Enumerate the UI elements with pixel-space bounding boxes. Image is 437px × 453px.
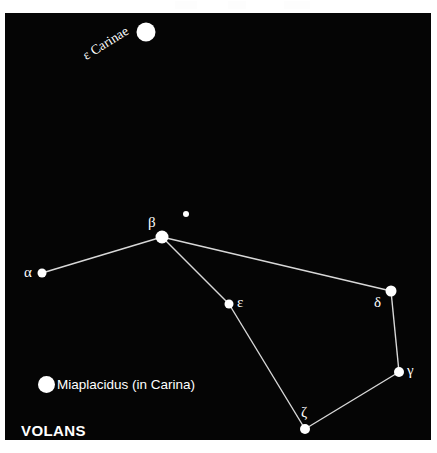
- constellation-line-epsilon-zeta: [229, 304, 305, 429]
- star-delta: [386, 286, 397, 297]
- sky-panel: ε Carinaeβαεδγζ Miaplacidus (in Carina) …: [5, 13, 431, 440]
- star-label-alpha: α: [24, 265, 32, 280]
- legend-label: Miaplacidus (in Carina): [57, 378, 195, 392]
- constellation-line-beta-delta: [162, 237, 391, 291]
- star-label-epsilon: ε: [237, 295, 243, 310]
- constellation-chart: ε Carinaeβαεδγζ Miaplacidus (in Carina) …: [0, 0, 437, 453]
- constellation-line-gamma-delta: [391, 291, 399, 372]
- star-unnamed-faint: [183, 211, 189, 217]
- constellation-line-beta-epsilon: [162, 237, 229, 304]
- star-label-zeta: ζ: [301, 405, 307, 420]
- caption-artifact-0: [175, 1, 197, 9]
- caption-artifact-1: [228, 1, 246, 9]
- constellation-line-alpha-beta: [42, 237, 162, 273]
- constellation-lines: [42, 237, 399, 429]
- star-zeta: [300, 424, 310, 434]
- legend: Miaplacidus (in Carina): [38, 376, 195, 393]
- star-epsilon: [225, 300, 234, 309]
- caption-artifact-2: [284, 1, 310, 9]
- star-epsilon-carinae: [137, 23, 156, 42]
- miaplacidus-star-dot: [38, 376, 55, 393]
- star-beta: [156, 231, 169, 244]
- star-label-delta: δ: [374, 295, 381, 310]
- constellation-stars: [38, 23, 405, 435]
- star-alpha: [38, 269, 47, 278]
- star-label-beta: β: [148, 215, 156, 230]
- constellation-title: VOLANS: [21, 422, 86, 439]
- constellation-line-zeta-gamma: [305, 372, 399, 429]
- star-gamma: [394, 367, 404, 377]
- star-label-gamma: γ: [407, 363, 414, 378]
